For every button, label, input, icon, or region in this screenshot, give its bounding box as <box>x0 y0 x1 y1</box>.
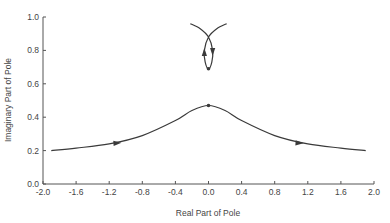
x-tick-label: -0.4 <box>168 187 183 197</box>
y-tick-label: 1.0 <box>27 12 39 22</box>
x-tick-label: 2.0 <box>368 187 380 197</box>
y-tick-label: 0.0 <box>27 179 39 189</box>
lower-locus-curve <box>51 106 365 151</box>
x-tick-label: 0.0 <box>203 187 215 197</box>
loop-bottom-marker <box>207 67 211 71</box>
x-tick-label: 1.2 <box>302 187 314 197</box>
direction-arrow-icon <box>202 48 207 56</box>
y-tick-label: 0.8 <box>27 45 39 55</box>
peak-marker <box>207 104 211 108</box>
x-tick-label: 1.6 <box>335 187 347 197</box>
direction-arrow-icon <box>295 140 303 146</box>
tick-labels: -2.0-1.6-1.2-0.8-0.40.00.40.81.21.62.00.… <box>27 12 380 197</box>
x-tick-label: 0.4 <box>236 187 248 197</box>
y-tick-label: 0.4 <box>27 112 39 122</box>
x-tick-label: -1.2 <box>102 187 117 197</box>
upper-loop-curve <box>190 24 226 69</box>
x-axis-label: Real Part of Pole <box>176 208 241 218</box>
axes <box>43 17 374 184</box>
direction-arrow-icon <box>210 48 215 56</box>
y-tick-label: 0.2 <box>27 146 39 156</box>
x-tick-label: -0.8 <box>135 187 150 197</box>
y-axis-label: Imaginary Part of Pole <box>3 58 13 142</box>
x-tick-label: 0.8 <box>269 187 281 197</box>
x-tick-label: -1.6 <box>69 187 84 197</box>
pole-locus-chart: -2.0-1.6-1.2-0.8-0.40.00.40.81.21.62.00.… <box>0 0 390 223</box>
chart-canvas: -2.0-1.6-1.2-0.8-0.40.00.40.81.21.62.00.… <box>0 0 390 223</box>
y-tick-label: 0.6 <box>27 79 39 89</box>
data-curves <box>51 24 365 151</box>
